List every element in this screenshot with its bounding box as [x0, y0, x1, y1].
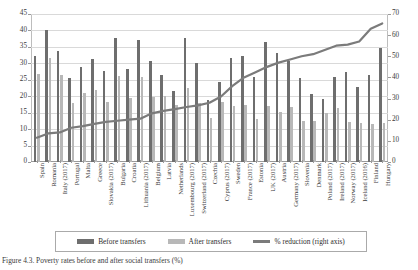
right-axis-tick: [388, 120, 391, 121]
legend-item-percent-reduction: % reduction (right axis): [253, 238, 344, 246]
chart-plot-area: 051015202530354045 010203040506070: [31, 14, 388, 162]
x-axis-label: Hungary: [385, 163, 392, 186]
right-axis-tick: [388, 14, 391, 15]
left-axis-tick-label: 20: [20, 93, 27, 100]
x-axis-label: Luxembourg (2017): [189, 163, 196, 216]
right-axis-tick-label: 40: [392, 74, 399, 81]
x-axis-label: Slovenia: [304, 163, 311, 186]
left-axis-tick-label: 35: [20, 43, 27, 50]
x-axis-label: Poland (2017): [327, 163, 334, 201]
x-axis-label: Germany (2017): [293, 163, 300, 207]
right-axis-tick: [388, 56, 391, 57]
x-axis-tick: [244, 160, 245, 163]
right-axis-tick: [388, 99, 391, 100]
x-axis-label: Belgium: [155, 163, 162, 186]
left-axis-tick-label: 45: [20, 10, 27, 17]
x-axis-tick: [152, 160, 153, 163]
x-axis-label: Bulgaria: [120, 163, 127, 186]
left-axis-tick-label: 15: [20, 109, 27, 116]
legend-swatch-before-transfers: [77, 239, 94, 244]
x-axis-label: Netherlands: [178, 163, 185, 195]
x-axis-label: Cyprus (2017): [224, 163, 231, 201]
legend-label-before-transfers: Before transfers: [98, 238, 145, 246]
legend-label-percent-reduction: % reduction (right axis): [274, 238, 344, 246]
chart-legend: Before transfers After transfers % reduc…: [55, 231, 367, 252]
legend-label-after-transfers: After transfers: [189, 238, 232, 246]
right-axis-tick-label: 10: [392, 137, 399, 144]
x-axis-label: Denmark: [316, 163, 323, 188]
x-axis-label: Sweden: [235, 163, 242, 184]
percent-reduction-line: [37, 24, 382, 138]
right-axis-tick-label: 20: [392, 116, 399, 123]
x-axis-tick: [290, 160, 291, 163]
figure-poverty-before-after-transfers: 051015202530354045 010203040506070 Spain…: [0, 0, 418, 270]
x-axis-label: Latvia: [166, 163, 173, 180]
figure-caption: Figure 4.3. Poverty rates before and aft…: [2, 256, 416, 265]
left-axis-tick-label: 25: [20, 76, 27, 83]
right-axis-tick-label: 50: [392, 53, 399, 60]
left-axis-tick-label: 10: [20, 126, 27, 133]
x-axis-label: Norway (2017): [350, 163, 357, 203]
x-axis-label: Finland: [373, 163, 380, 183]
x-axis-tick: [221, 160, 222, 163]
right-axis-tick-label: 30: [392, 95, 399, 102]
right-axis-tick-label: 70: [392, 10, 399, 17]
right-axis-tick: [388, 77, 391, 78]
x-axis-label: Slovakia (2017): [108, 163, 115, 205]
reduction-line-series: [31, 14, 388, 162]
left-axis-tick-label: 30: [20, 60, 27, 67]
legend-item-after-transfers: After transfers: [168, 238, 232, 246]
x-axis-label: Austria: [281, 163, 288, 182]
x-axis-label: Spain: [39, 163, 46, 178]
x-axis-label: France (2017): [247, 163, 254, 200]
x-axis-category-labels: SpainRomaniaItaly (2017)PortugalMaltaGre…: [31, 163, 388, 229]
right-axis-tick: [388, 35, 391, 36]
right-axis-tick: [388, 141, 391, 142]
x-axis-label: Portugal: [74, 163, 81, 185]
x-axis-label: Greece: [97, 163, 104, 182]
x-axis-label: Ireland (2017): [339, 163, 346, 201]
legend-item-before-transfers: Before transfers: [77, 238, 145, 246]
x-axis-label: Romania: [51, 163, 58, 187]
x-axis-label: Lithuania (2017): [143, 163, 150, 208]
left-axis-tick-label: 40: [20, 27, 27, 34]
x-axis-tick: [175, 160, 176, 163]
legend-swatch-percent-reduction: [253, 240, 270, 243]
x-axis-tick: [198, 160, 199, 163]
x-axis-label: Iceland (2016): [362, 163, 369, 202]
left-axis-tick-label: 0: [23, 158, 27, 165]
right-axis-tick-label: 60: [392, 32, 399, 39]
x-axis-tick: [267, 160, 268, 163]
legend-swatch-after-transfers: [168, 239, 185, 244]
x-axis-label: Malta: [85, 163, 92, 178]
x-axis-label: UK (2017): [270, 163, 277, 192]
right-axis-tick-label: 0: [392, 158, 396, 165]
left-axis-tick-label: 5: [23, 142, 27, 149]
x-axis-label: Estonia: [258, 163, 265, 183]
x-axis-tick: [313, 160, 314, 163]
x-axis-label: Switzerland (2017): [201, 163, 208, 214]
x-axis-label: Italy (2017): [62, 163, 69, 194]
x-axis-label: Czechia: [212, 163, 219, 184]
x-axis-label: Croatia: [131, 163, 138, 182]
